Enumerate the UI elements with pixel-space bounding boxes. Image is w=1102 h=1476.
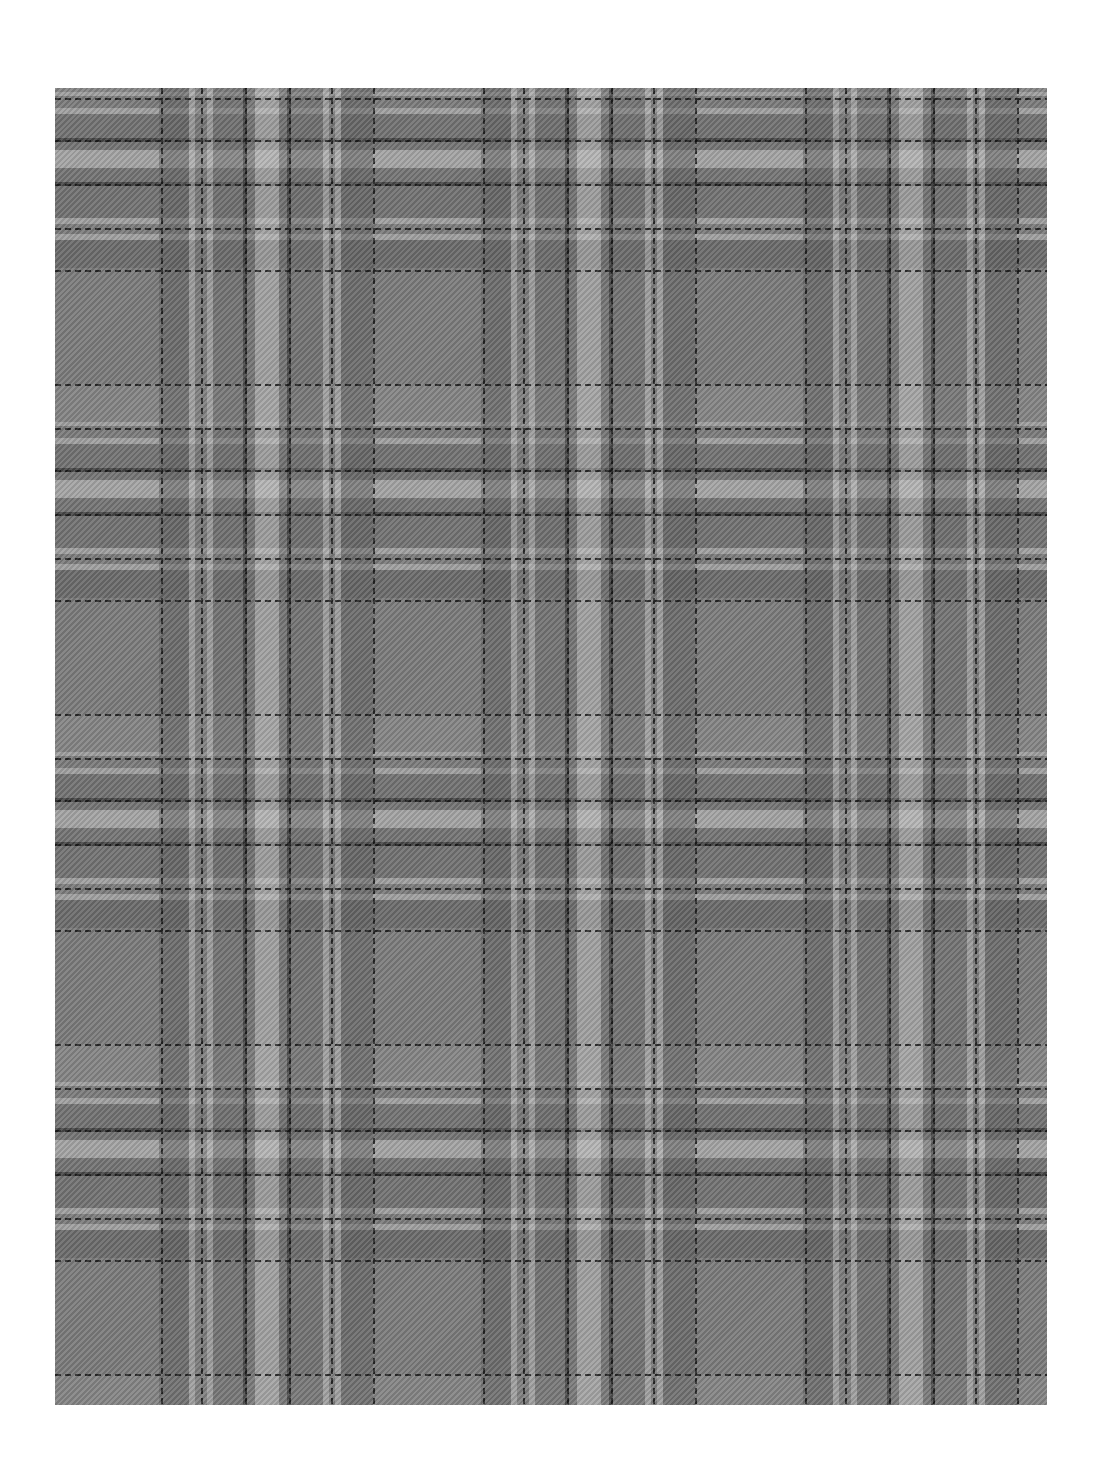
plaid-fabric-swatch — [55, 88, 1047, 1405]
twill-texture — [55, 88, 1047, 1405]
